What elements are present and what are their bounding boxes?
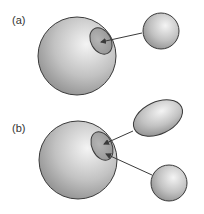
- panel-a-label: (a): [12, 14, 25, 26]
- panel-a: (a): [12, 13, 179, 95]
- panel-b-label: (b): [12, 122, 25, 134]
- small-sphere: [151, 165, 187, 201]
- panel-b: (b): [12, 93, 188, 201]
- diagram: (a) (b): [0, 0, 204, 214]
- large-sphere: [38, 17, 116, 95]
- small-sphere: [143, 13, 179, 49]
- ellipsoid: [128, 93, 189, 144]
